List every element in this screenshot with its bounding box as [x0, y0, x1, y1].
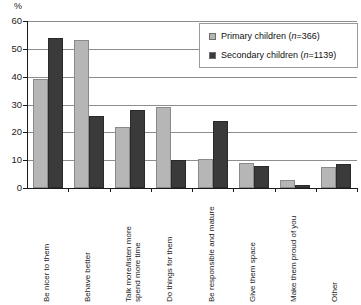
x-axis-category-label: Talk more/listen more spend more time: [124, 192, 142, 302]
legend-item-secondary: Secondary children (n=1139): [209, 50, 336, 60]
x-axis-category-label: Make them proud of you: [289, 192, 298, 302]
bar-secondary: [254, 166, 269, 188]
y-axis-unit-label: %: [14, 1, 22, 11]
y-axis-line: [27, 21, 28, 189]
bar-primary: [156, 107, 171, 188]
chart-legend: Primary children (n=366) Secondary child…: [199, 23, 358, 68]
y-axis-tick-mark: [23, 132, 27, 133]
y-axis-tick-label: 0: [0, 182, 22, 193]
bar-secondary: [213, 121, 228, 188]
y-axis-tick-label: 60: [0, 15, 22, 26]
y-axis-tick-mark: [23, 188, 27, 189]
bar-primary: [239, 163, 254, 188]
y-axis-tick-label: 40: [0, 71, 22, 82]
legend-item-primary: Primary children (n=366): [209, 31, 320, 41]
bar-chart: % 0102030405060 Be nicer to themBehave b…: [0, 0, 361, 305]
legend-label-primary: Primary children (n=366): [221, 31, 320, 41]
legend-swatch-primary: [209, 33, 216, 40]
x-axis-category-label: Other: [330, 192, 339, 302]
x-axis-category-label: Be responsible and mature: [207, 192, 216, 302]
bar-secondary: [48, 38, 63, 188]
y-axis-tick-label: 10: [0, 154, 22, 165]
bar-secondary: [89, 116, 104, 188]
bar-primary: [198, 159, 213, 188]
x-axis-category-label: Do things for them: [165, 192, 174, 302]
x-axis-category-label: Give them space: [248, 192, 257, 302]
y-axis-tick-mark: [23, 160, 27, 161]
legend-swatch-secondary: [209, 52, 216, 59]
bar-secondary: [336, 164, 351, 188]
bar-primary: [280, 180, 295, 188]
y-axis-tick-mark: [23, 77, 27, 78]
bar-secondary: [171, 160, 186, 188]
y-axis-tick-label: 20: [0, 126, 22, 137]
y-axis-tick-mark: [23, 49, 27, 50]
bar-primary: [115, 127, 130, 188]
y-axis-tick-mark: [23, 21, 27, 22]
legend-label-secondary: Secondary children (n=1139): [221, 50, 336, 60]
bar-primary: [33, 79, 48, 188]
y-axis-tick-label: 30: [0, 99, 22, 110]
x-axis-category-labels: Be nicer to themBehave betterTalk more/l…: [27, 192, 358, 304]
bar-primary: [321, 167, 336, 188]
gridline: [27, 21, 357, 22]
bar-primary: [74, 40, 89, 188]
y-axis-tick-mark: [23, 105, 27, 106]
y-axis-tick-label: 50: [0, 43, 22, 54]
x-axis-category-label: Behave better: [83, 192, 92, 302]
bar-secondary: [130, 110, 145, 188]
x-axis-category-label: Be nicer to them: [42, 192, 51, 302]
